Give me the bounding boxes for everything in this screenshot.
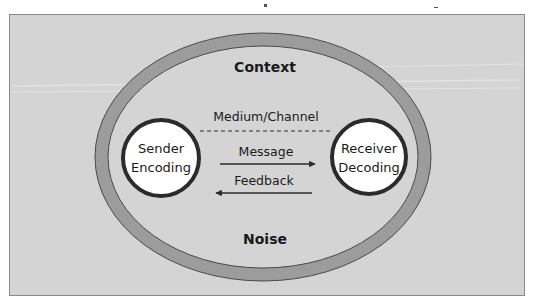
noise-label: Noise bbox=[243, 232, 287, 246]
sender-label: Sender bbox=[131, 139, 191, 158]
receiver-node-label: Receiver Decoding bbox=[338, 139, 399, 177]
message-label: Message bbox=[239, 146, 294, 159]
feedback-label: Feedback bbox=[234, 175, 294, 188]
medium-channel-label: Medium/Channel bbox=[213, 111, 319, 124]
context-label: Context bbox=[234, 60, 296, 74]
decoding-label: Decoding bbox=[338, 158, 399, 177]
sender-node-label: Sender Encoding bbox=[131, 139, 191, 177]
encoding-label: Encoding bbox=[131, 158, 191, 177]
receiver-label: Receiver bbox=[338, 139, 399, 158]
